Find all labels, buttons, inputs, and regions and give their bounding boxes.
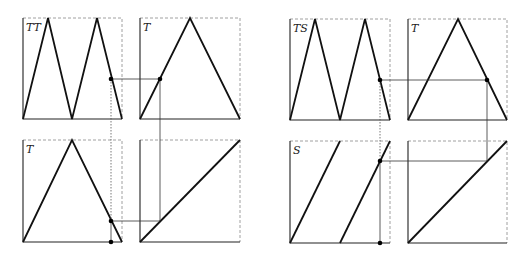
panel-t-top: T — [408, 19, 507, 120]
point-marker — [109, 77, 114, 82]
panel-frame-dashed — [140, 18, 240, 119]
left-group: TT T T — [23, 18, 240, 244]
panel-label-tt: TT — [26, 21, 43, 34]
panel-frame-dashed — [23, 140, 122, 242]
panel-label-t: T — [26, 143, 35, 156]
panel-t-top: T — [140, 18, 240, 119]
tent-curve — [140, 18, 240, 119]
panel-label-s: S — [293, 144, 301, 157]
panel-frame-dashed — [408, 19, 507, 120]
identity-diagonal — [140, 140, 240, 242]
point-marker — [158, 77, 163, 82]
panel-ts: TS — [290, 19, 390, 120]
identity-diagonal — [408, 141, 507, 243]
panel-s: S — [290, 141, 390, 243]
point-marker — [378, 78, 383, 83]
panel-frame-dashed — [290, 141, 390, 243]
tent-curve — [408, 19, 507, 120]
trace-lines — [109, 77, 163, 245]
panel-axes — [23, 140, 122, 242]
panel-axes — [408, 19, 507, 120]
panel-identity — [408, 141, 507, 243]
composition-diagram: TT T T — [0, 0, 527, 255]
panel-label-t: T — [411, 22, 420, 35]
panel-axes — [290, 141, 390, 243]
point-marker — [378, 241, 383, 246]
point-marker — [109, 219, 114, 224]
point-marker — [109, 240, 114, 245]
panel-axes — [140, 18, 240, 119]
panel-t-bottom: T — [23, 140, 122, 242]
tent-curve — [23, 140, 122, 242]
sawtooth-segment-2 — [340, 141, 390, 243]
panel-label-t: T — [143, 21, 152, 34]
point-marker — [485, 78, 490, 83]
right-group: TS T S — [290, 19, 507, 245]
panel-tt: TT — [23, 18, 122, 119]
point-marker — [378, 159, 383, 164]
panel-label-ts: TS — [293, 22, 308, 35]
panel-identity — [140, 140, 240, 242]
trace-lines — [378, 78, 490, 246]
